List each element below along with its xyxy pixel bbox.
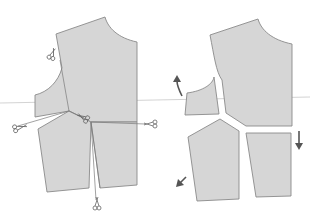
scissors-icon xyxy=(93,197,101,210)
left-bodice xyxy=(18,17,145,200)
scissors-icon xyxy=(144,120,157,128)
pattern-diagram xyxy=(0,0,310,217)
left-bodice-lower-side xyxy=(38,111,91,192)
right-piece-armhole xyxy=(185,77,219,115)
left-bodice-lower-center xyxy=(91,122,137,188)
right-piece-side xyxy=(188,119,239,201)
arrow-up-icon xyxy=(173,75,182,96)
right-bodice xyxy=(185,19,292,201)
left-bodice-upper xyxy=(35,17,137,122)
diagram-canvas xyxy=(0,0,310,217)
scissors-icon xyxy=(47,47,59,61)
right-piece-upper xyxy=(210,19,292,126)
right-piece-center xyxy=(246,133,291,197)
arrow-down-icon xyxy=(295,131,303,150)
arrow-down-left-icon xyxy=(176,177,186,187)
